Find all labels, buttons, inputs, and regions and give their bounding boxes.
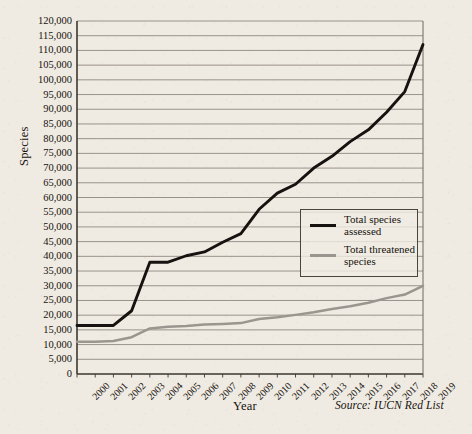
- legend-label-threatened-line1: Total threatened: [344, 244, 418, 256]
- legend-label-assessed: Total species assessed: [344, 214, 418, 237]
- x-axis-title: Year: [233, 399, 257, 414]
- x-axis-tick-label: 2004: [163, 380, 185, 402]
- legend-label-assessed-line1: Total species: [344, 214, 418, 226]
- x-axis-tick-label: 2001: [108, 380, 130, 402]
- x-axis-tick-label: 2003: [144, 380, 166, 402]
- x-axis-tick-label: 2006: [199, 380, 221, 402]
- x-axis-tick-label: 2005: [181, 380, 203, 402]
- source-note: Source: IUCN Red List: [335, 399, 444, 411]
- x-axis-tick-label: 2010: [272, 380, 294, 402]
- legend-swatch-threatened: [310, 254, 336, 257]
- x-axis-tick-label: 2012: [308, 380, 330, 402]
- legend-entry-assessed: Total species assessed: [301, 215, 417, 245]
- x-axis-tick-label: 2000: [90, 380, 112, 402]
- legend-label-threatened-line2: species: [344, 256, 418, 268]
- legend-swatch-assessed: [310, 224, 336, 227]
- line-chart: Species 05,00010,00015,00020,00025,00030…: [0, 0, 472, 434]
- legend-entry-threatened: Total threatened species: [301, 245, 417, 275]
- legend-label-assessed-line2: assessed: [344, 226, 418, 238]
- legend-label-threatened: Total threatened species: [344, 244, 418, 267]
- x-axis-tick-label: 2002: [126, 380, 148, 402]
- x-axis-tick-label: 2009: [254, 380, 276, 402]
- x-axis-tick-label: 2011: [290, 380, 312, 402]
- chart-legend: Total species assessed Total threatened …: [300, 209, 418, 277]
